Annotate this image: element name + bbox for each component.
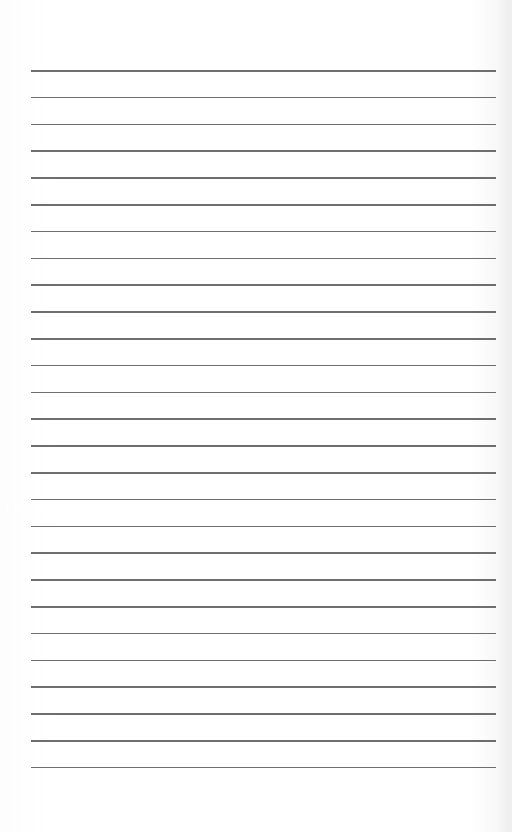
ruled-line [31,177,496,179]
ruled-line [31,552,496,554]
ruled-line [31,284,496,286]
ruled-line [31,97,496,99]
ruled-line [31,418,496,420]
ruled-line [31,204,496,206]
lined-paper-page [0,0,512,832]
ruled-line [31,258,496,260]
ruled-line [31,526,496,528]
page-edge-shadow [498,0,512,832]
ruled-line [31,124,496,126]
ruled-line [31,660,496,662]
ruled-line [31,70,496,72]
ruled-line [31,740,496,742]
ruled-line [31,499,496,501]
ruled-line [31,365,496,367]
ruled-line [31,606,496,608]
ruled-line [31,392,496,394]
ruled-line [31,713,496,715]
ruled-line [31,231,496,233]
ruled-line [31,633,496,635]
ruled-line [31,472,496,474]
ruled-line [31,445,496,447]
ruled-line [31,767,496,769]
ruled-line [31,311,496,313]
ruled-line [31,686,496,688]
ruled-line [31,150,496,152]
ruled-line [31,338,496,340]
ruled-line [31,579,496,581]
